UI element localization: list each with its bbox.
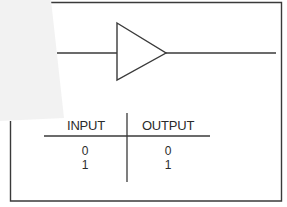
buffer-triangle-icon: [117, 23, 166, 80]
table-cell-input: 1: [75, 159, 95, 172]
table-header-input: INPUT: [55, 119, 117, 133]
paper-overlay: [0, 0, 64, 121]
table-cell-output: 0: [158, 145, 178, 158]
buffer-diagram: [0, 0, 287, 207]
table-header-output: OUTPUT: [135, 119, 201, 133]
table-cell-input: 0: [75, 145, 95, 158]
table-cell-output: 1: [158, 159, 178, 172]
